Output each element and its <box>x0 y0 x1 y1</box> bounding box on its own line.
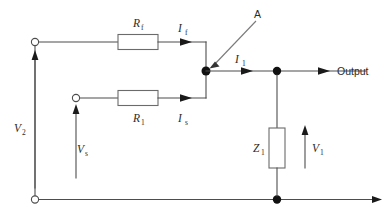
load-impedance-label-sub: 1 <box>261 148 265 157</box>
terminal-vs[interactable] <box>72 94 79 101</box>
load-current-label: I <box>234 53 240 65</box>
load-impedance-label: Z <box>253 142 260 154</box>
v2-label-sub: 2 <box>22 128 26 137</box>
terminal-v2-bottom[interactable] <box>31 196 38 203</box>
v1-label-sub: 1 <box>320 148 324 157</box>
bottom-rail-arrow-head <box>372 196 382 203</box>
load-impedance-body <box>269 128 285 168</box>
v2-arrow-head <box>32 50 39 60</box>
output-arrow-head <box>318 67 330 75</box>
source-resistor-body <box>118 91 158 106</box>
load-current-label-sub: 1 <box>242 59 246 68</box>
if-arrow-head <box>180 38 192 46</box>
node-output-bottom <box>273 195 281 203</box>
v1-arrow-head <box>302 125 309 135</box>
source-current-label: I <box>177 112 183 124</box>
circuit-diagram: R f I f R 1 I s I 1 V 2 V s Z 1 V 1 A Ou… <box>0 0 390 217</box>
feedback-resistor-label-sub: f <box>141 23 144 32</box>
terminal-v2-top[interactable] <box>31 38 38 45</box>
feedback-resistor-label: R <box>132 17 140 29</box>
circuit-canvas: R f I f R 1 I s I 1 V 2 V s Z 1 V 1 A Ou… <box>0 0 390 217</box>
node-a-label: A <box>254 8 261 20</box>
i1-arrow-head <box>241 67 253 75</box>
feedback-current-label-sub: f <box>185 28 188 37</box>
vs-arrow-head <box>73 104 80 114</box>
feedback-resistor-body <box>118 35 158 50</box>
source-current-label-sub: s <box>185 118 188 127</box>
output-label: Output <box>337 65 369 77</box>
vs-label-sub: s <box>85 149 88 158</box>
feedback-current-label: I <box>177 22 183 34</box>
is-arrow-head <box>180 94 192 102</box>
node-a-leader-arrow-head <box>210 62 220 69</box>
source-resistor-label: R <box>132 112 140 124</box>
node-output-top <box>273 67 281 75</box>
source-resistor-label-sub: 1 <box>141 118 145 127</box>
